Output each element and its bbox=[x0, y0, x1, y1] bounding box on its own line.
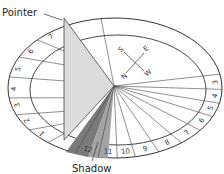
shadow-label: Shadow bbox=[72, 163, 111, 174]
hour-number: 4 bbox=[10, 86, 18, 91]
hour-number: 11 bbox=[103, 148, 112, 157]
hour-number: 10 bbox=[121, 147, 131, 156]
sundial-diagram: Pointer Shadow S E N W 12345671211109876… bbox=[0, 0, 224, 174]
hour-number: 3 bbox=[211, 80, 219, 85]
pointer-leader-line bbox=[44, 14, 62, 20]
pointer-label: Pointer bbox=[2, 7, 38, 18]
